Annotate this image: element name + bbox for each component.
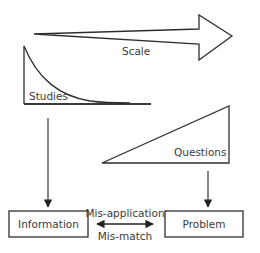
questions-wedge: Questions (102, 106, 229, 163)
scale-label: Scale (122, 45, 150, 57)
studies-label: Studies (29, 90, 68, 102)
information-box: Information (9, 211, 88, 237)
diagram-canvas: Scale Studies Questions Information Prob… (0, 0, 260, 253)
scale-arrow: Scale (34, 15, 232, 60)
mis-match-label: Mis-match (98, 230, 152, 242)
problem-box: Problem (165, 211, 243, 237)
information-label: Information (18, 218, 79, 230)
problem-label: Problem (183, 218, 226, 230)
mismatch-connector: Mis-application Mis-match (85, 207, 164, 242)
questions-label: Questions (174, 146, 226, 158)
mis-application-label: Mis-application (85, 207, 164, 219)
